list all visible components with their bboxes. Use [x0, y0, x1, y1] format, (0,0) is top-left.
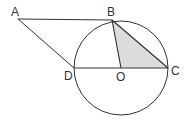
- segment-ad: [18, 19, 74, 68]
- label-a: A: [11, 5, 19, 19]
- label-d: D: [64, 69, 73, 83]
- segment-ab: [18, 19, 112, 20]
- label-o: O: [116, 70, 125, 84]
- label-b: B: [107, 5, 115, 19]
- label-c: C: [171, 64, 180, 78]
- geometry-diagram: A B C D O: [0, 0, 188, 121]
